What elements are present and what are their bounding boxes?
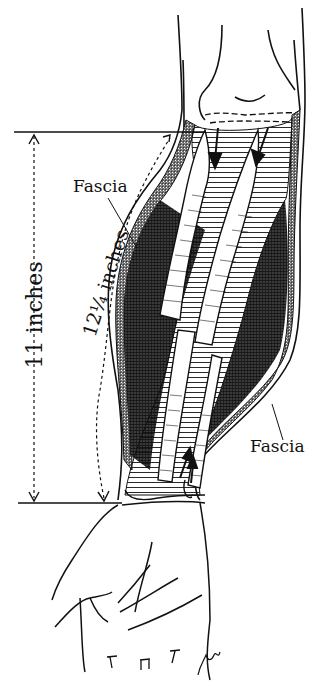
upper-arm-outline bbox=[178, 8, 305, 130]
fascia-label-lower: Fascia bbox=[250, 436, 305, 456]
fingernails bbox=[107, 650, 180, 670]
hand bbox=[52, 503, 210, 680]
measure-11-inches: 11 inches bbox=[22, 262, 47, 369]
elbow-joint bbox=[205, 113, 298, 123]
fascia-leader-lower bbox=[272, 404, 283, 440]
forearm-fascia-illustration: Fascia Fascia 11 inches 12¼ inches bbox=[0, 0, 330, 688]
fascia-label-upper: Fascia bbox=[73, 176, 128, 196]
